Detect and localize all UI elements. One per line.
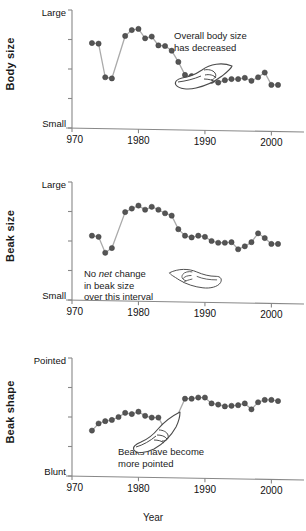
pointing-hand-icon xyxy=(128,410,182,456)
y-top-label-body-size: Large xyxy=(42,7,66,18)
svg-text:1970: 1970 xyxy=(66,134,84,145)
annotation-line-3: over this interval xyxy=(84,291,153,303)
y-tick-labels-beak-size: Large Small xyxy=(18,172,66,307)
pointing-hand-icon xyxy=(172,60,234,94)
pointing-hand-icon xyxy=(164,264,226,294)
svg-text:1970: 1970 xyxy=(66,482,84,493)
y-bottom-label-beak-shape: Blunt xyxy=(44,466,66,477)
svg-text:2000: 2000 xyxy=(260,485,283,496)
annotation-line-2: more pointed xyxy=(118,458,204,470)
annotation-line-1-text: No net change xyxy=(84,268,146,279)
annotation-line-1: No net change xyxy=(84,268,153,280)
plot-beak-shape: 1970198019902000 xyxy=(66,348,304,516)
annotation-beak-size: No net change in beak size over this int… xyxy=(84,268,153,303)
y-top-label-beak-shape: Pointed xyxy=(34,355,66,366)
svg-text:2000: 2000 xyxy=(260,137,283,148)
svg-text:2000: 2000 xyxy=(260,309,283,320)
panel-body-size: Body size Large Small 1970198019902000 O… xyxy=(0,0,306,177)
y-axis-title-beak-size: Beak size xyxy=(2,172,18,300)
y-bottom-label-body-size: Small xyxy=(42,118,66,129)
svg-text:1990: 1990 xyxy=(194,484,217,495)
y-top-label-beak-size: Large xyxy=(42,179,66,190)
annotation-line-1: Overall body size xyxy=(174,30,247,42)
annotation-line-2: has decreased xyxy=(174,42,247,54)
svg-text:1980: 1980 xyxy=(127,135,150,146)
svg-text:1990: 1990 xyxy=(194,308,217,319)
y-axis-title-beak-shape: Beak shape xyxy=(2,348,18,476)
y-tick-labels-body-size: Large Small xyxy=(18,0,66,135)
plot-beak-size: 1970198019902000 xyxy=(66,172,304,340)
svg-text:1980: 1980 xyxy=(127,307,150,318)
y-bottom-label-beak-size: Small xyxy=(42,290,66,301)
y-tick-labels-beak-shape: Pointed Blunt xyxy=(18,348,66,483)
panel-beak-shape: Beak shape Pointed Blunt 197019801990200… xyxy=(0,348,306,525)
x-axis-title: Year xyxy=(0,512,306,523)
svg-text:1970: 1970 xyxy=(66,306,84,317)
svg-text:1990: 1990 xyxy=(194,136,217,147)
svg-text:1980: 1980 xyxy=(127,483,150,494)
annotation-body-size: Overall body size has decreased xyxy=(174,30,247,53)
annotation-line-2: in beak size xyxy=(84,280,153,292)
y-axis-title-body-size: Body size xyxy=(2,0,18,128)
panel-beak-size: Beak size Large Small 1970198019902000 N… xyxy=(0,172,306,349)
